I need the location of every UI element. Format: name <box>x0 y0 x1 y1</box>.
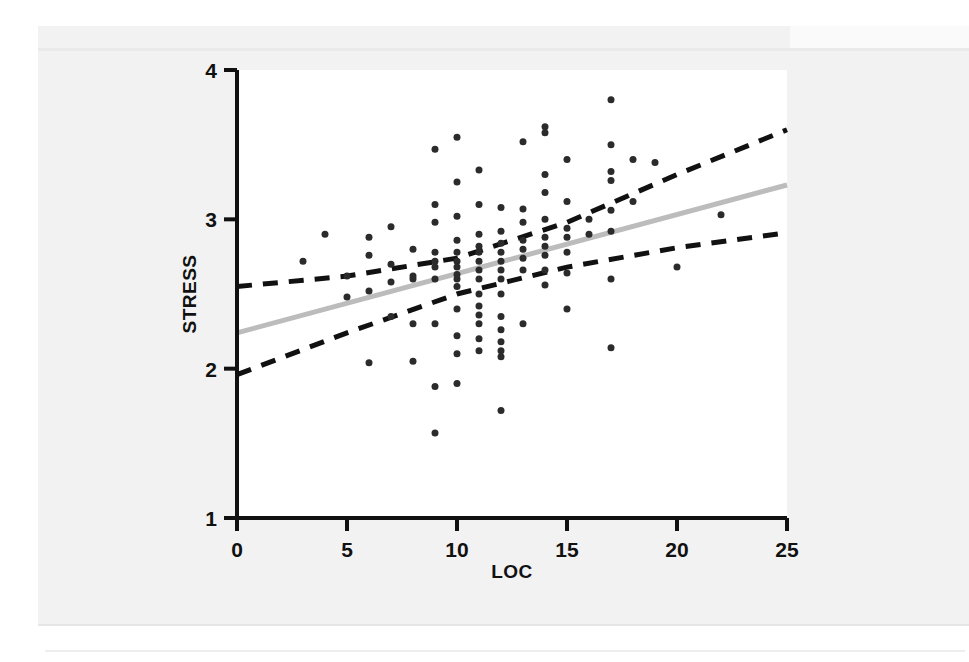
data-point <box>542 252 549 259</box>
data-point <box>498 347 505 354</box>
plot-area-background <box>237 70 787 518</box>
data-point <box>454 213 461 220</box>
data-point <box>454 276 461 283</box>
data-point <box>476 320 483 327</box>
data-point <box>498 258 505 265</box>
data-point <box>432 249 439 256</box>
data-point <box>366 252 373 259</box>
data-point <box>498 240 505 247</box>
data-point <box>476 311 483 318</box>
data-point <box>454 264 461 271</box>
data-point <box>454 380 461 387</box>
data-point <box>476 335 483 342</box>
data-point <box>454 179 461 186</box>
data-point <box>520 267 527 274</box>
data-point <box>564 249 571 256</box>
data-point <box>454 249 461 256</box>
data-point <box>564 225 571 232</box>
y-axis-title: STRESS <box>179 254 200 333</box>
x-axis-tick-label: 15 <box>555 538 579 561</box>
data-point <box>542 171 549 178</box>
data-point <box>542 189 549 196</box>
data-point <box>498 276 505 283</box>
data-point <box>564 234 571 241</box>
data-point <box>476 243 483 250</box>
data-point <box>542 282 549 289</box>
data-point <box>542 243 549 250</box>
y-axis-tick-label: 2 <box>205 358 217 381</box>
data-point <box>388 313 395 320</box>
data-point <box>454 283 461 290</box>
data-point <box>476 201 483 208</box>
data-point <box>564 156 571 163</box>
data-point <box>432 219 439 226</box>
data-point <box>520 205 527 212</box>
data-point <box>542 123 549 130</box>
x-axis-tick-label: 20 <box>665 538 688 561</box>
data-point <box>476 231 483 238</box>
data-point <box>498 204 505 211</box>
data-point <box>476 167 483 174</box>
data-point <box>344 293 351 300</box>
data-point <box>608 344 615 351</box>
data-point <box>366 234 373 241</box>
data-point <box>498 326 505 333</box>
data-point <box>520 320 527 327</box>
data-point <box>608 96 615 103</box>
data-point <box>542 216 549 223</box>
data-point <box>520 246 527 253</box>
data-point <box>454 332 461 339</box>
data-point <box>454 350 461 357</box>
y-axis-tick-label: 1 <box>205 507 217 530</box>
data-point <box>630 156 637 163</box>
data-point <box>520 237 527 244</box>
data-point <box>454 134 461 141</box>
data-point <box>630 198 637 205</box>
data-point <box>520 219 527 226</box>
data-point <box>432 429 439 436</box>
data-point <box>564 198 571 205</box>
data-point <box>608 141 615 148</box>
data-point <box>344 273 351 280</box>
data-point <box>498 313 505 320</box>
scatter-plot-figure: 05101520251234 LOC STRESS <box>0 0 969 662</box>
chart-canvas: 05101520251234 LOC STRESS <box>0 0 969 662</box>
data-point <box>608 177 615 184</box>
data-point <box>498 249 505 256</box>
data-point <box>322 231 329 238</box>
data-point <box>388 261 395 268</box>
data-point <box>564 305 571 312</box>
data-point <box>498 353 505 360</box>
data-point <box>432 258 439 265</box>
data-point <box>366 288 373 295</box>
x-axis-tick-label: 10 <box>445 538 468 561</box>
data-point <box>366 359 373 366</box>
data-point <box>432 383 439 390</box>
data-point <box>388 223 395 230</box>
data-point <box>652 159 659 166</box>
data-point <box>498 291 505 298</box>
data-point <box>432 276 439 283</box>
data-point <box>608 207 615 214</box>
data-point <box>432 201 439 208</box>
data-point <box>476 249 483 256</box>
data-point <box>476 258 483 265</box>
data-point <box>454 258 461 265</box>
data-point <box>476 347 483 354</box>
data-point <box>454 305 461 312</box>
data-point <box>542 234 549 241</box>
data-point <box>498 267 505 274</box>
data-point <box>476 291 483 298</box>
data-point <box>476 302 483 309</box>
data-point <box>410 273 417 280</box>
data-point <box>410 246 417 253</box>
x-axis-tick-label: 25 <box>775 538 799 561</box>
data-point <box>388 279 395 286</box>
data-point <box>586 216 593 223</box>
data-point <box>564 270 571 277</box>
data-point <box>498 407 505 414</box>
x-axis-tick-label: 0 <box>231 538 243 561</box>
data-point <box>674 264 681 271</box>
data-point <box>608 276 615 283</box>
data-point <box>542 129 549 136</box>
